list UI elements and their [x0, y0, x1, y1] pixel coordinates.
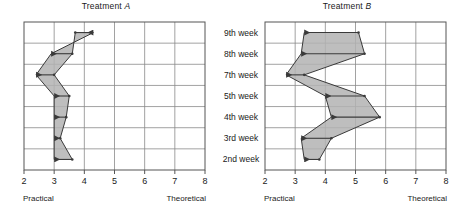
x-tick-b-5: 5: [353, 176, 358, 186]
point-theoretical-b-7: [318, 158, 321, 161]
plot-area-a: 2345678PracticalTheoretical: [0, 0, 212, 212]
point-theoretical-a-3: [53, 74, 56, 77]
axis-right-label-a: Theoretical: [166, 194, 206, 203]
point-theoretical-b-2: [363, 52, 366, 55]
x-tick-a-2: 2: [21, 176, 26, 186]
x-tick-a-5: 5: [112, 176, 117, 186]
point-theoretical-b-3: [303, 74, 306, 77]
point-theoretical-a-7: [71, 158, 74, 161]
point-theoretical-b-1: [357, 31, 360, 34]
x-tick-b-7: 7: [413, 176, 418, 186]
point-theoretical-a-2: [71, 52, 74, 55]
axis-left-label-a: Practical: [23, 194, 54, 203]
x-tick-a-3: 3: [52, 176, 57, 186]
x-tick-b-8: 8: [443, 176, 448, 186]
axis-right-label-b: Theoretical: [407, 194, 447, 203]
point-theoretical-b-6: [330, 137, 333, 140]
point-theoretical-a-5: [65, 116, 68, 119]
panel-treatment-b: Treatment B 2345678PracticalTheoretical: [241, 0, 453, 212]
point-theoretical-a-4: [68, 95, 71, 98]
x-tick-b-6: 6: [383, 176, 388, 186]
x-tick-b-2: 2: [262, 176, 267, 186]
axis-left-label-b: Practical: [264, 194, 295, 203]
x-tick-b-4: 4: [323, 176, 328, 186]
point-theoretical-b-4: [363, 95, 366, 98]
plot-area-b: 2345678PracticalTheoretical: [241, 0, 453, 212]
point-theoretical-a-6: [59, 137, 62, 140]
point-theoretical-a-1: [74, 31, 77, 34]
chart-figure: Treatment A 2345678PracticalTheoretical …: [0, 0, 473, 212]
point-theoretical-b-5: [378, 116, 381, 119]
x-tick-a-7: 7: [172, 176, 177, 186]
x-tick-b-3: 3: [293, 176, 298, 186]
x-tick-a-6: 6: [142, 176, 147, 186]
x-tick-a-4: 4: [82, 176, 87, 186]
panel-treatment-a: Treatment A 2345678PracticalTheoretical: [0, 0, 212, 212]
